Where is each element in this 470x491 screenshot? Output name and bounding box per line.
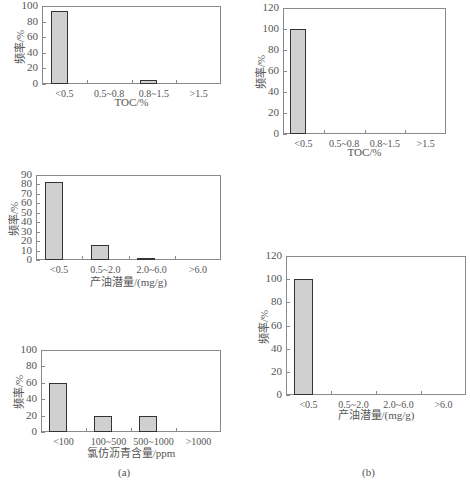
y-tick-mark (36, 175, 40, 176)
plot-frame (283, 8, 446, 134)
y-tick-mark (286, 326, 290, 327)
y-tick-mark (42, 84, 46, 85)
plot-frame (41, 350, 221, 432)
x-tick-mark (405, 130, 406, 134)
y-axis-label: 频率/% (252, 55, 268, 89)
y-tick-label: 80 (13, 360, 37, 371)
y-tick-mark (41, 383, 45, 384)
y-tick-mark (41, 432, 45, 433)
y-tick-mark (283, 92, 287, 93)
y-tick-mark (283, 134, 287, 135)
bar-<0.5 (51, 11, 68, 84)
y-tick-mark (283, 8, 287, 9)
y-tick-mark (41, 350, 45, 351)
bar-<0.5 (45, 182, 63, 260)
y-tick-mark (36, 251, 40, 252)
y-tick-label: 80 (8, 178, 32, 189)
bar-0.8~1.5 (140, 80, 157, 84)
y-tick-label: 100 (258, 273, 282, 284)
x-tick-mark (175, 256, 176, 260)
x-tick-mark (176, 428, 177, 432)
y-tick-mark (42, 53, 46, 54)
y-tick-mark (283, 50, 287, 51)
x-axis-label: TOC/% (283, 146, 446, 158)
y-tick-label: 20 (13, 410, 37, 421)
y-tick-label: 20 (14, 62, 38, 73)
y-tick-label: 80 (14, 16, 38, 27)
panel-label-a: (a) (118, 466, 130, 478)
x-tick-mark (86, 428, 87, 432)
y-tick-label: 10 (8, 245, 32, 256)
y-axis-label: 频率/% (5, 202, 21, 236)
y-tick-mark (36, 184, 40, 185)
y-tick-mark (286, 256, 290, 257)
y-tick-mark (36, 222, 40, 223)
y-tick-label: 20 (255, 107, 279, 118)
plot-frame (36, 175, 221, 260)
plot-frame (42, 6, 221, 84)
x-tick-mark (365, 130, 366, 134)
y-tick-mark (286, 372, 290, 373)
y-tick-label: 40 (258, 343, 282, 354)
bar-<0.5 (290, 29, 306, 134)
y-tick-mark (41, 416, 45, 417)
y-tick-label: 100 (13, 344, 37, 355)
x-tick-mark (132, 80, 133, 84)
y-tick-mark (36, 241, 40, 242)
x-tick-mark (131, 428, 132, 432)
x-axis-label: TOC/% (42, 96, 221, 108)
y-tick-mark (36, 194, 40, 195)
y-tick-mark (286, 395, 290, 396)
y-tick-mark (36, 213, 40, 214)
y-tick-label: 20 (258, 366, 282, 377)
y-tick-label: 70 (8, 188, 32, 199)
y-tick-label: 20 (8, 235, 32, 246)
y-tick-mark (42, 22, 46, 23)
x-tick-mark (129, 256, 130, 260)
y-tick-mark (42, 37, 46, 38)
x-tick-mark (82, 256, 83, 260)
bar-500~1000 (139, 416, 157, 432)
x-tick-mark (331, 391, 332, 395)
x-tick-mark (176, 80, 177, 84)
x-tick-mark (324, 130, 325, 134)
y-tick-mark (286, 349, 290, 350)
y-tick-mark (36, 232, 40, 233)
y-tick-mark (41, 366, 45, 367)
y-tick-label: 80 (258, 296, 282, 307)
x-tick-mark (376, 391, 377, 395)
y-tick-label: 100 (255, 23, 279, 34)
y-tick-label: 100 (14, 0, 38, 11)
bar-0.5~2.0 (91, 245, 109, 260)
bar-<100 (49, 383, 67, 432)
y-tick-label: 120 (258, 250, 282, 261)
x-axis-label: 产油潜量/(mg/g) (36, 273, 221, 289)
y-tick-mark (283, 71, 287, 72)
y-axis-label: 频率/% (10, 375, 26, 409)
y-tick-mark (286, 302, 290, 303)
x-axis-label: 氯仿沥青含量/ppm (41, 444, 221, 460)
y-tick-mark (36, 203, 40, 204)
y-tick-mark (42, 6, 46, 7)
y-tick-mark (286, 279, 290, 280)
panel-label-b: (b) (362, 466, 375, 478)
plot-frame (286, 256, 466, 395)
x-tick-mark (421, 391, 422, 395)
y-tick-mark (283, 113, 287, 114)
bar-100~500 (94, 416, 112, 432)
y-tick-mark (283, 29, 287, 30)
bar-<0.5 (294, 279, 313, 395)
y-tick-mark (36, 260, 40, 261)
y-tick-mark (42, 68, 46, 69)
y-tick-mark (41, 399, 45, 400)
x-tick-mark (87, 80, 88, 84)
y-axis-label: 频率/% (255, 310, 271, 344)
x-axis-label: 产油潜量/(mg/g) (286, 406, 466, 422)
y-tick-label: 90 (8, 169, 32, 180)
y-tick-label: 120 (255, 2, 279, 13)
y-tick-label: 80 (255, 44, 279, 55)
y-axis-label: 频率/% (11, 30, 27, 64)
bar-2.0~6.0 (137, 258, 155, 260)
